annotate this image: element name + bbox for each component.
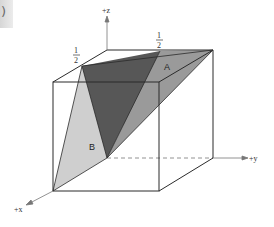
region-b-label: B [89,142,95,152]
svg-text:1: 1 [74,46,78,55]
svg-text:2: 2 [74,56,78,65]
fraction-half-right: 1 2 [156,31,163,50]
z-axis-label: +z [102,6,111,15]
svg-text:2: 2 [157,41,161,50]
x-axis-arrow-icon [26,200,33,205]
svg-text:1: 1 [157,31,161,40]
cube-diagram: +z +y +x 1 2 1 2 A B [0,0,274,227]
z-axis-arrow-icon [105,16,109,22]
x-axis-label: +x [14,205,23,214]
fraction-half-left: 1 2 [73,46,80,65]
y-axis-arrow-icon [242,156,248,160]
region-a-label: A [164,62,170,72]
x-axis [30,191,53,203]
y-axis-label: +y [249,154,258,163]
